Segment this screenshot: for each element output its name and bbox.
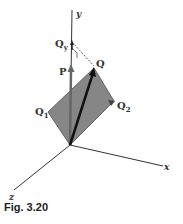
x-axis — [70, 145, 163, 166]
projection-line — [72, 42, 94, 66]
label-q1: Q1 — [35, 106, 49, 120]
vector-p-arrowhead — [68, 64, 75, 72]
y-axis-label: y — [75, 9, 82, 19]
figure-caption: Fig. 3.20 — [4, 201, 48, 213]
x-axis-label: x — [163, 162, 170, 172]
label-qy: Qy — [55, 38, 69, 52]
vector-p — [70, 70, 71, 145]
z-axis — [14, 145, 70, 190]
vector-diagram: y x z Qy Q P Q1 Q2 — [0, 0, 183, 224]
label-q: Q — [96, 58, 105, 69]
vector-qy-arrowhead — [70, 40, 74, 45]
label-q2: Q2 — [117, 100, 131, 114]
label-p: P — [59, 66, 67, 77]
